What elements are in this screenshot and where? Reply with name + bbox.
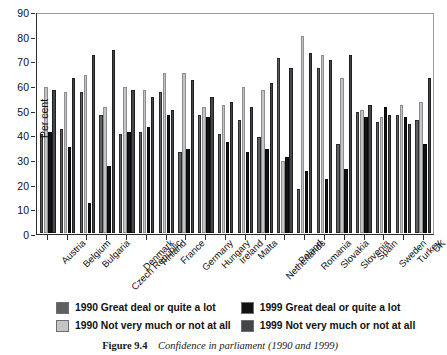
bar-1999-great-deal	[68, 147, 71, 233]
figure-caption: Figure 9.4 Confidence in parliament (199…	[0, 340, 440, 351]
bar-1990-not-very-much	[419, 102, 422, 233]
bar-group	[157, 13, 177, 233]
legend-swatch-icon	[241, 302, 254, 314]
bar-1999-great-deal	[384, 107, 387, 233]
bar-1990-great-deal	[376, 122, 379, 233]
bar-1990-great-deal	[80, 92, 83, 233]
figure-title: Confidence in parliament (1990 and 1999)	[158, 340, 338, 351]
bar-group	[315, 13, 335, 233]
bar-1999-great-deal	[186, 149, 189, 233]
bar-1999-great-deal	[226, 142, 229, 233]
bar-1990-not-very-much	[222, 105, 225, 233]
bar-1990-great-deal	[317, 68, 320, 233]
bar-1999-not-very-much	[52, 90, 55, 233]
legend-swatch-icon	[56, 320, 69, 332]
bar-1999-great-deal	[206, 117, 209, 233]
bar-group	[216, 13, 236, 233]
bar-1990-great-deal	[257, 137, 260, 233]
bar-1999-great-deal	[167, 115, 170, 233]
bar-1999-not-very-much	[250, 107, 253, 233]
bar-group	[236, 13, 256, 233]
legend-label: 1999 Not very much or not at all	[260, 321, 416, 331]
bar-group	[78, 13, 98, 233]
bar-1990-great-deal	[277, 58, 280, 233]
bar-group	[97, 13, 117, 233]
y-axis-tick-label: 40	[17, 131, 29, 142]
y-axis-tick-label: 0	[23, 230, 29, 241]
bar-1990-great-deal	[178, 152, 181, 233]
bar-1990-great-deal	[415, 120, 418, 233]
bar-group	[255, 13, 275, 233]
bar-1990-great-deal	[60, 129, 63, 233]
bar-1999-not-very-much	[309, 53, 312, 233]
y-axis-tick	[31, 13, 35, 14]
bar-1990-great-deal	[238, 120, 241, 233]
bar-1999-great-deal	[147, 127, 150, 233]
y-axis-tick	[31, 62, 35, 63]
bar-1990-great-deal	[336, 144, 339, 233]
y-axis-title: Per cent	[38, 99, 50, 138]
bar-1999-great-deal	[364, 117, 367, 233]
bar-group	[58, 13, 78, 233]
bar-1999-not-very-much	[72, 78, 75, 233]
y-axis-tick	[31, 87, 35, 88]
bar-1999-not-very-much	[210, 97, 213, 233]
bar-1990-not-very-much	[103, 107, 106, 233]
bar-1999-not-very-much	[151, 97, 154, 233]
bar-1990-not-very-much	[182, 73, 185, 233]
bar-1990-great-deal	[159, 92, 162, 233]
bar-1999-great-deal	[344, 169, 347, 233]
y-axis-tick	[31, 186, 35, 187]
legend-label: 1990 Great deal or quite a lot	[75, 303, 216, 313]
y-axis-tick-label: 80	[17, 32, 29, 43]
y-axis-tick	[31, 38, 35, 39]
bar-1990-not-very-much	[380, 117, 383, 233]
bar-1999-not-very-much	[289, 68, 292, 233]
figure-number: Figure 9.4	[102, 340, 147, 351]
bar-1990-great-deal	[40, 134, 43, 233]
bar-1999-great-deal	[325, 179, 328, 233]
y-axis-tick	[31, 235, 35, 236]
bar-1990-not-very-much	[242, 87, 245, 233]
legend-item-1990-great-deal: 1990 Great deal or quite a lot	[56, 302, 231, 314]
bar-1999-great-deal	[423, 144, 426, 233]
bar-1999-not-very-much	[368, 105, 371, 233]
bar-1999-great-deal	[107, 166, 110, 233]
bar-1990-great-deal	[297, 189, 300, 233]
bar-1990-not-very-much	[143, 90, 146, 233]
legend-item-1990-not-very-much: 1990 Not very much or not at all	[56, 320, 231, 332]
chart-plot-area: 0102030405060708090 Per cent	[36, 13, 434, 235]
legend-item-1999-great-deal: 1999 Great deal or quite a lot	[241, 302, 416, 314]
bar-group	[275, 13, 295, 233]
bar-1999-not-very-much	[191, 80, 194, 233]
bar-group	[394, 13, 414, 233]
legend-swatch-icon	[241, 320, 254, 332]
bar-1999-not-very-much	[112, 50, 115, 233]
bar-1999-great-deal	[265, 149, 268, 233]
bar-1990-not-very-much	[261, 90, 264, 233]
bar-1990-not-very-much	[360, 110, 363, 233]
legend-item-1999-not-very-much: 1999 Not very much or not at all	[241, 320, 416, 332]
bar-1990-not-very-much	[281, 161, 284, 233]
bar-1990-not-very-much	[400, 105, 403, 233]
bar-1990-great-deal	[396, 115, 399, 233]
bar-1999-not-very-much	[92, 55, 95, 233]
bar-1990-not-very-much	[321, 55, 324, 233]
chart-axes	[36, 13, 434, 235]
bar-group	[413, 13, 433, 233]
bar-1999-not-very-much	[131, 90, 134, 233]
bar-1990-great-deal	[99, 115, 102, 233]
bar-1990-great-deal	[119, 134, 122, 233]
bar-1999-not-very-much	[408, 124, 411, 233]
y-axis-tick-label: 20	[17, 180, 29, 191]
bar-1990-not-very-much	[84, 75, 87, 233]
y-axis-tick	[31, 136, 35, 137]
y-axis-tick	[31, 112, 35, 113]
bar-1999-not-very-much	[230, 102, 233, 233]
bar-1999-great-deal	[305, 171, 308, 233]
bar-1990-not-very-much	[123, 87, 126, 233]
bar-group	[137, 13, 157, 233]
bar-1990-not-very-much	[64, 92, 67, 233]
legend-label: 1999 Great deal or quite a lot	[260, 303, 401, 313]
